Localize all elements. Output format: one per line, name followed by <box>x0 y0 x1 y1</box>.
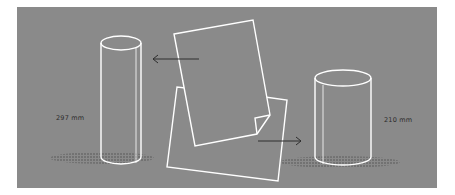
right-cylinder <box>315 70 371 165</box>
left-cylinder <box>101 36 141 164</box>
right-cylinder-label: 210 mm <box>384 116 412 124</box>
arrow-right-icon <box>258 137 301 145</box>
right-cylinder-shadow <box>280 156 400 168</box>
left-cylinder-label: 297 mm <box>56 114 84 122</box>
left-cylinder-shadow <box>50 152 154 164</box>
front-paper-sheet <box>174 20 270 146</box>
diagram-graphics <box>0 0 455 195</box>
